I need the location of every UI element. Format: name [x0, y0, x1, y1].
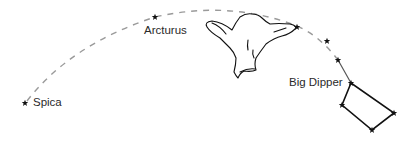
star-diagram: Spica Arcturus Big Dipper	[0, 0, 415, 145]
label-spica: Spica	[33, 96, 62, 108]
big-dipper-bowl	[342, 83, 394, 130]
label-arcturus: Arcturus	[144, 24, 187, 36]
diagram-canvas	[0, 0, 415, 145]
star-handle-2	[324, 38, 330, 44]
hand-icon	[206, 14, 296, 78]
stars	[22, 14, 397, 133]
label-big-dipper: Big Dipper	[289, 76, 343, 88]
